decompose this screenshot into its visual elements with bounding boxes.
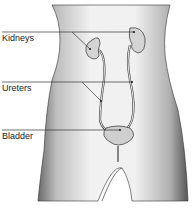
label-ureters: Ureters	[2, 83, 32, 93]
torso	[38, 5, 188, 201]
label-bladder: Bladder	[2, 131, 33, 141]
torso-illustration	[0, 0, 196, 211]
label-kidneys: Kidneys	[2, 33, 34, 43]
urinary-system-diagram: Kidneys Ureters Bladder	[0, 0, 196, 211]
